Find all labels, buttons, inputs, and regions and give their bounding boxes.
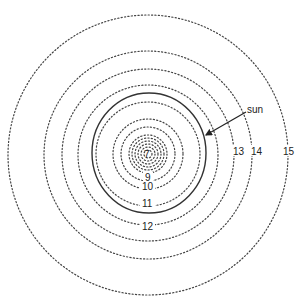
label-11: 11: [142, 198, 153, 209]
label-10: 10: [142, 181, 154, 192]
label-13: 13: [233, 146, 245, 157]
label-7: 7: [144, 149, 150, 160]
diagram-canvas: 7 9 10 11 12 13 14 15 sun: [0, 0, 307, 307]
label-14: 14: [251, 146, 263, 157]
contour-diagram: 7 9 10 11 12 13 14 15 sun: [0, 0, 307, 307]
label-sun: sun: [247, 104, 263, 115]
sun-arrow: [206, 112, 246, 135]
label-15: 15: [283, 146, 295, 157]
label-12: 12: [142, 221, 154, 232]
